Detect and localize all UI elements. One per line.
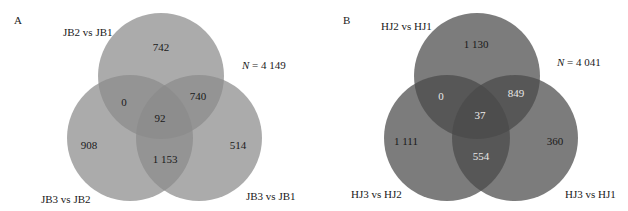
total-count: N = 4 149: [241, 59, 286, 71]
venn-panel-b: B HJ2 vs HJ1 HJ3 vs HJ2 HJ3 vs HJ1 N = 4…: [343, 13, 616, 201]
set-label-left: HJ3 vs HJ2: [351, 188, 402, 200]
region-right-count: 514: [230, 139, 247, 151]
set-label-right: HJ3 vs HJ1: [565, 188, 616, 200]
region-center-count: 92: [155, 112, 166, 124]
region-top-right-count: 740: [190, 90, 207, 102]
region-bottom-count: 1 153: [153, 153, 178, 165]
region-left-count: 908: [81, 139, 98, 151]
region-top-right-count: 849: [508, 87, 525, 99]
region-top-count: 1 130: [464, 38, 489, 50]
region-top-left-count: 0: [121, 96, 127, 108]
region-bottom-count: 554: [473, 150, 490, 162]
venn-panel-a: A JB2 vs JB1 JB3 vs JB2 JB3 vs JB1 N = 4…: [14, 13, 296, 205]
panel-label-a: A: [14, 14, 22, 26]
set-label-right: JB3 vs JB1: [246, 190, 296, 202]
region-center-count: 37: [475, 109, 487, 121]
region-top-count: 742: [153, 41, 170, 53]
total-count: N = 4 041: [556, 56, 601, 68]
region-right-count: 360: [547, 135, 564, 147]
set-label-top: JB2 vs JB1: [63, 26, 113, 38]
set-label-top: HJ2 vs HJ1: [381, 20, 432, 32]
panel-label-b: B: [343, 14, 350, 26]
venn-figure: A JB2 vs JB1 JB3 vs JB2 JB3 vs JB1 N = 4…: [0, 0, 628, 211]
region-left-count: 1 111: [394, 135, 418, 147]
region-top-left-count: 0: [438, 90, 444, 102]
set-label-left: JB3 vs JB2: [41, 193, 91, 205]
